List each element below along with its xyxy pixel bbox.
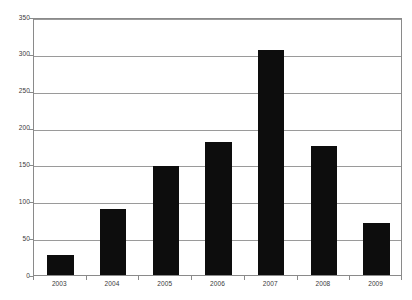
y-axis-tick-label: 300 <box>4 51 30 58</box>
y-axis-tick-label: 250 <box>4 88 30 95</box>
bar-slot <box>245 19 298 275</box>
bar-slot <box>192 19 245 275</box>
x-axis: 2003200420052006200720082009 <box>33 281 402 295</box>
x-axis-tick-label: 2003 <box>33 281 86 288</box>
bar[interactable] <box>258 50 284 275</box>
bar[interactable] <box>153 166 179 275</box>
y-axis-tick-label: 200 <box>4 125 30 132</box>
x-axis-tick-mark <box>349 276 350 280</box>
y-axis-tick-label: 350 <box>4 15 30 22</box>
bar-slot <box>298 19 351 275</box>
y-axis: 050100150200250300350 <box>0 18 30 276</box>
bar[interactable] <box>363 223 389 275</box>
bar-slot <box>34 19 87 275</box>
bar-chart: 050100150200250300350 200320042005200620… <box>0 0 412 300</box>
bar-slot <box>87 19 140 275</box>
y-axis-tick-label: 0 <box>4 273 30 280</box>
x-axis-tick-mark <box>401 276 402 280</box>
plot-area <box>33 18 402 276</box>
x-axis-tick-label: 2006 <box>191 281 244 288</box>
bar-slot <box>139 19 192 275</box>
x-axis-tick-mark <box>33 276 34 280</box>
x-axis-tick-mark <box>138 276 139 280</box>
bar[interactable] <box>100 209 126 275</box>
y-axis-tick-label: 150 <box>4 162 30 169</box>
x-axis-tick-mark <box>191 276 192 280</box>
bars-layer <box>34 19 401 275</box>
bar-slot <box>350 19 402 275</box>
bar[interactable] <box>311 146 337 275</box>
y-axis-tick-label: 100 <box>4 199 30 206</box>
x-axis-tick-mark <box>86 276 87 280</box>
y-axis-tick-label: 50 <box>4 236 30 243</box>
x-axis-tick-label: 2009 <box>349 281 402 288</box>
x-axis-tick-mark <box>297 276 298 280</box>
bar[interactable] <box>47 255 73 275</box>
x-axis-tick-label: 2007 <box>244 281 297 288</box>
x-axis-tick-label: 2008 <box>297 281 350 288</box>
x-axis-tick-mark <box>244 276 245 280</box>
bar[interactable] <box>205 142 231 275</box>
x-axis-tick-label: 2004 <box>86 281 139 288</box>
x-axis-tick-label: 2005 <box>138 281 191 288</box>
